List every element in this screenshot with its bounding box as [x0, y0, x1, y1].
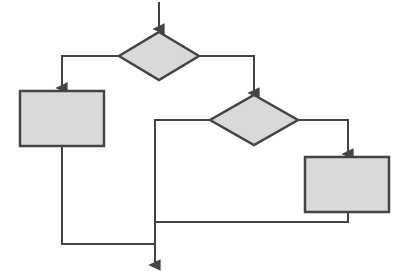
- connector-decision-1-to-decision-2: [199, 56, 254, 93]
- flowchart-svg: [0, 0, 406, 271]
- decision-diamond-top[interactable]: [119, 32, 199, 80]
- decision-diamond-middle[interactable]: [210, 95, 298, 145]
- connector-decision-1-to-process-left: [62, 56, 119, 88]
- connector-decision-2-to-merge: [155, 120, 210, 222]
- connector-process-right-to-merge: [155, 212, 348, 222]
- nodes-layer: [20, 32, 389, 212]
- flowchart-canvas: [0, 0, 406, 271]
- process-box-left[interactable]: [20, 91, 104, 146]
- connector-decision-2-to-process-right: [298, 120, 348, 154]
- connector-process-left-to-exit: [62, 146, 155, 244]
- process-box-right[interactable]: [305, 157, 389, 212]
